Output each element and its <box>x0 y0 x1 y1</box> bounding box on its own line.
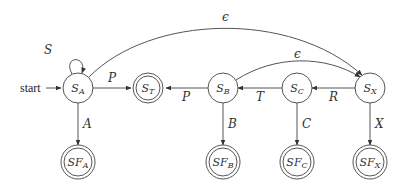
state-SFB: SFB <box>206 145 240 179</box>
edge-SA-SA <box>70 60 83 74</box>
state-ST: ST <box>133 73 163 103</box>
state-subscript: C <box>298 87 304 96</box>
edge-label-SA-SA: S <box>44 43 52 57</box>
state-subscript: B <box>227 161 234 170</box>
state-SA: SA <box>63 73 93 103</box>
edge-label-SC-SB: T <box>256 90 265 104</box>
state-label: SF <box>212 156 228 169</box>
edge-label-SC-SFC: C <box>302 117 311 131</box>
state-subscript: B <box>223 87 230 96</box>
state-SC: SC <box>282 73 312 103</box>
state-SFC: SFC <box>280 145 314 179</box>
edge-label-SB-SFB: B <box>227 117 237 131</box>
edge-label-SA-SX: ϵ <box>222 10 229 24</box>
state-SB: SB <box>208 73 238 103</box>
state-subscript: T <box>149 87 155 96</box>
state-subscript: A <box>82 161 89 170</box>
edge-label-SA-SFA: A <box>82 117 92 131</box>
state-label: SF <box>286 156 302 169</box>
start-label: start <box>20 81 41 95</box>
edge-label-SX-SFX: X <box>374 117 384 131</box>
state-SFX: SFX <box>353 145 387 179</box>
edge-label-SB-ST: P <box>181 90 191 104</box>
edge-label-SA-ST: P <box>107 71 117 85</box>
edge-label-SB-SX: ϵ <box>294 47 301 61</box>
state-subscript: X <box>374 161 381 170</box>
edge-label-SX-SC: R <box>328 90 338 104</box>
state-SFA: SFA <box>61 145 95 179</box>
state-subscript: A <box>78 87 85 96</box>
state-label: SF <box>68 156 84 169</box>
edge-SA-SX <box>89 28 362 77</box>
state-subscript: X <box>370 87 377 96</box>
state-diagram: start S P ϵ A P ϵ B T C R X SA ST SB SC … <box>0 0 409 193</box>
state-SX: SX <box>355 73 385 103</box>
state-subscript: C <box>302 161 308 170</box>
state-label: SF <box>360 156 376 169</box>
